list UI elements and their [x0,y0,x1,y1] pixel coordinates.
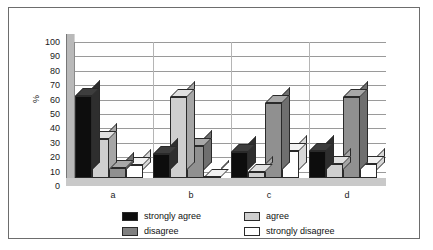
y-axis-tick-label: 20 [50,153,60,162]
plot-floor [66,178,386,186]
legend-label: disagree [144,226,179,236]
chart-frame: % 1009080706050403020100 abcd strongly a… [8,7,420,239]
bar-a-series-0 [75,96,92,178]
legend-swatch-icon [244,212,260,221]
bar-front-face [109,168,126,178]
x-axis-tick-label-c: c [267,190,272,200]
bar-front-face [75,96,92,178]
x-axis-tick-label-b: b [188,190,193,200]
y-axis-tick-label: 80 [50,66,60,75]
legend-item-2[interactable]: disagree [122,226,179,236]
y-axis-tick-label: 50 [50,110,60,119]
legend-swatch-icon [122,212,138,221]
bar-c-series-0 [231,152,248,178]
legend-item-1[interactable]: agree [244,211,289,221]
legend-label: strongly disagree [266,226,335,236]
x-axis-tick-label-d: d [344,190,349,200]
legend-item-3[interactable]: strongly disagree [244,226,335,236]
bar-b-series-3 [204,177,221,179]
y-axis-tick-label: 70 [50,81,60,90]
bar-b-series-0 [153,154,170,178]
legend-item-0[interactable]: strongly agree [122,211,201,221]
plot-area: 1009080706050403020100 [66,34,386,186]
y-axis-tick-label: 10 [50,167,60,176]
y-axis-tick-label: 60 [50,95,60,104]
bar-front-face [204,176,221,178]
y-axis-tick-label: 90 [50,52,60,61]
bar-a-series-2 [109,168,126,178]
bar-chart-figure: % 1009080706050403020100 abcd strongly a… [0,0,433,250]
y-axis-tick-label: 0 [55,182,60,191]
x-axis-labels: abcd [66,190,386,204]
legend-label: strongly agree [144,211,201,221]
legend-swatch-icon [244,227,260,236]
bar-front-face [248,172,265,178]
legend-label: agree [266,211,289,221]
bar-front-face [309,151,326,178]
x-axis-tick-label-a: a [110,190,115,200]
bar-front-face [153,154,170,178]
y-axis-depth-wall [66,34,74,186]
y-axis-ticks: 1009080706050403020100 [25,34,65,186]
bar-c-series-1 [248,172,265,178]
bar-front-face [231,152,248,178]
legend-swatch-icon [122,227,138,236]
y-axis-tick-label: 30 [50,138,60,147]
y-axis-tick-label: 40 [50,124,60,133]
y-axis-tick-label: 100 [45,38,60,47]
bar-d-series-0 [309,151,326,178]
chart-legend: strongly agreeagreedisagreestrongly disa… [122,211,352,241]
